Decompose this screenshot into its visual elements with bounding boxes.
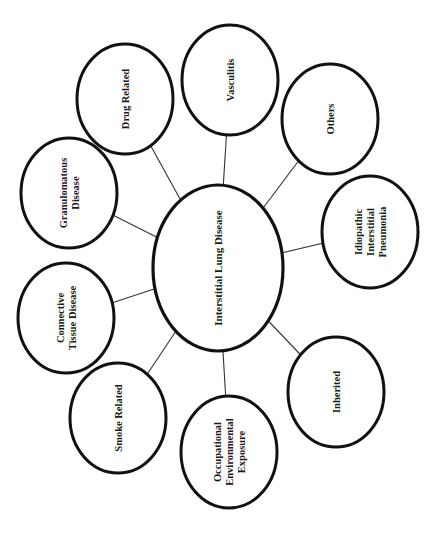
label-smoke-related: Smoke Related (113, 384, 124, 452)
label-line: Idiopathic (353, 209, 364, 255)
center-node-interstitial-lung-disease: Interstitial Lung Disease (153, 185, 283, 351)
label-line: Inherited (331, 371, 342, 413)
label-line: Tissue Disease (67, 286, 78, 351)
label-inherited: Inherited (331, 371, 342, 413)
nodes: Drug RelatedVasculitisOthersIdiopathicIn… (18, 25, 418, 508)
label-line: Granulomatous (58, 158, 69, 229)
label-line: Pneumonia (377, 206, 388, 258)
label-line: Disease (70, 176, 81, 210)
label-idiopathic-interstitial-pneumonia: IdiopathicInterstitialPneumonia (353, 206, 388, 258)
node-occupational-environmental-exposure: OccupationalEnvironmentalExposure (181, 396, 277, 508)
node-vasculitis: Vasculitis (182, 25, 278, 135)
node-granulomatous-disease: GranulomatousDisease (21, 138, 117, 248)
node-smoke-related: Smoke Related (70, 363, 166, 473)
label-line: Exposure (236, 430, 247, 473)
label-line: Environmental (224, 418, 235, 486)
label-drug-related: Drug Related (120, 69, 131, 130)
label-interstitial-lung-disease: Interstitial Lung Disease (212, 210, 224, 326)
label-connective-tissue-disease: ConnectiveTissue Disease (55, 286, 78, 351)
node-connective-tissue-disease: ConnectiveTissue Disease (18, 263, 114, 373)
label-line: Interstitial Lung Disease (212, 210, 224, 326)
label-line: Smoke Related (113, 384, 124, 452)
node-drug-related: Drug Related (77, 44, 173, 154)
label-line: Drug Related (120, 69, 131, 130)
node-others: Others (282, 64, 378, 174)
label-line: Others (325, 104, 336, 135)
label-line: Occupational (212, 422, 223, 482)
node-idiopathic-interstitial-pneumonia: IdiopathicInterstitialPneumonia (322, 176, 418, 288)
node-inherited: Inherited (288, 337, 384, 447)
ild-classification-diagram: Drug RelatedVasculitisOthersIdiopathicIn… (0, 0, 427, 538)
label-line: Connective (55, 293, 66, 343)
label-others: Others (325, 104, 336, 135)
label-line: Interstitial (365, 208, 376, 256)
label-line: Vasculitis (225, 59, 236, 102)
label-vasculitis: Vasculitis (225, 59, 236, 102)
